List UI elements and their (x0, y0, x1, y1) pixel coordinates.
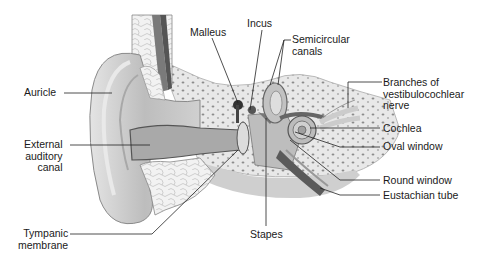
label-eustachian-tube: Eustachian tube (383, 190, 458, 202)
label-malleus: Malleus (190, 27, 226, 39)
label-auricle: Auricle (24, 87, 56, 99)
label-tympanic-membrane: Tympanic membrane (18, 228, 68, 251)
label-line: Branches of (383, 77, 464, 89)
ear-diagram: Auricle External auditory canal Tympanic… (0, 0, 482, 261)
label-line: canal (24, 162, 63, 174)
label-external-auditory-canal: External auditory canal (24, 139, 63, 174)
label-round-window: Round window (383, 175, 452, 187)
label-incus: Incus (247, 18, 272, 30)
label-semicircular-canals: Semicircular canals (292, 34, 350, 57)
label-oval-window: Oval window (383, 141, 443, 153)
label-vestibulocochlear-nerve: Branches of vestibulocochlear nerve (383, 77, 464, 112)
label-line: Semicircular (292, 34, 350, 46)
label-line: Tympanic (18, 228, 68, 240)
incus-shape (248, 106, 256, 114)
tympanic-membrane-shape (237, 122, 249, 154)
label-cochlea: Cochlea (383, 123, 422, 135)
label-line: canals (292, 46, 350, 58)
label-line: nerve (383, 100, 464, 112)
label-line: membrane (18, 240, 68, 252)
label-stapes: Stapes (250, 229, 283, 241)
label-line: External (24, 139, 63, 151)
